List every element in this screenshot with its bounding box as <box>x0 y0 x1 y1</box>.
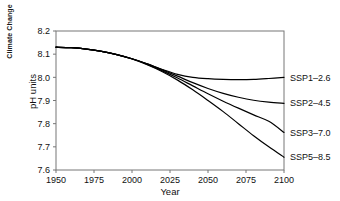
svg-text:7.6: 7.6 <box>37 165 50 175</box>
line-chart-plot: 7.67.77.87.98.08.18.2 195019752000202520… <box>0 0 340 201</box>
svg-text:7.8: 7.8 <box>37 119 50 129</box>
svg-text:2100: 2100 <box>274 175 294 185</box>
svg-text:2025: 2025 <box>160 175 180 185</box>
svg-text:2075: 2075 <box>236 175 256 185</box>
svg-text:8.0: 8.0 <box>37 73 50 83</box>
plot-frame <box>56 31 284 170</box>
svg-text:7.9: 7.9 <box>37 96 50 106</box>
svg-text:7.7: 7.7 <box>37 142 50 152</box>
x-axis-ticks: 1950197520002025205020752100 <box>46 170 294 185</box>
y-axis-ticks: 7.67.77.87.98.08.18.2 <box>37 26 56 175</box>
series-label-ssp5-8.5: SSP5–8.5 <box>290 152 331 162</box>
series-label-ssp3-7.0: SSP3–7.0 <box>290 128 331 138</box>
figure-container: Climate Change pH units Year 7.67.77.87.… <box>0 0 340 201</box>
svg-text:8.2: 8.2 <box>37 26 50 36</box>
series-label-ssp1-2.6: SSP1–2.6 <box>290 73 331 83</box>
series-label-ssp2-4.5: SSP2–4.5 <box>290 98 331 108</box>
series-inline-labels: SSP1–2.6SSP2–4.5SSP3–7.0SSP5–8.5 <box>290 73 331 163</box>
svg-text:8.1: 8.1 <box>37 49 50 59</box>
series-line-ssp3-7.0 <box>56 47 284 132</box>
series-line-ssp5-8.5 <box>56 47 284 157</box>
svg-text:2000: 2000 <box>122 175 142 185</box>
svg-text:1975: 1975 <box>84 175 104 185</box>
data-series-lines <box>56 47 284 157</box>
svg-text:2050: 2050 <box>198 175 218 185</box>
svg-text:1950: 1950 <box>46 175 66 185</box>
